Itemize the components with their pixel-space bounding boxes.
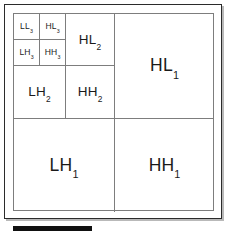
subband-lh1-level: 1 bbox=[72, 168, 78, 180]
subband-hh3-level: 3 bbox=[57, 54, 60, 60]
subband-hl1-label: HL1 bbox=[150, 57, 179, 75]
subband-hh3-label: HH3 bbox=[45, 48, 61, 57]
subband-hl1-level: 1 bbox=[173, 69, 179, 81]
subband-hh3-band: HH bbox=[45, 47, 58, 57]
subband-hl3-label: HL3 bbox=[45, 22, 59, 31]
subband-lh2: LH2 bbox=[14, 66, 65, 118]
subband-hh1-label: HH1 bbox=[149, 157, 181, 175]
figure-canvas: LL3 HL3 LH3 HH3 HL2 LH2 HH2 HL1 LH1 H bbox=[0, 0, 230, 233]
subband-ll3-label: LL3 bbox=[20, 22, 33, 31]
subband-hh1-level: 1 bbox=[174, 168, 180, 180]
subband-hh1-band: HH bbox=[149, 155, 175, 175]
subband-lh1-band: LH bbox=[50, 155, 73, 175]
subband-hl2-band: HL bbox=[79, 32, 97, 47]
subband-hh2-band: HH bbox=[78, 84, 98, 99]
subband-hh2: HH2 bbox=[66, 66, 114, 118]
subband-ll3: LL3 bbox=[14, 14, 39, 39]
subband-lh3-label: LH3 bbox=[19, 48, 33, 57]
wavelet-decomposition-box: LL3 HL3 LH3 HH3 HL2 LH2 HH2 HL1 LH1 H bbox=[13, 13, 214, 211]
subband-lh2-level: 2 bbox=[46, 94, 51, 104]
subband-hl2-label: HL2 bbox=[79, 33, 101, 47]
subband-hl3: HL3 bbox=[40, 14, 65, 39]
subband-lh3-band: LH bbox=[19, 47, 30, 57]
subband-lh3-level: 3 bbox=[31, 54, 34, 60]
subband-lh2-label: LH2 bbox=[28, 85, 50, 99]
subband-hl1-band: HL bbox=[150, 55, 173, 75]
subband-hl1: HL1 bbox=[115, 14, 214, 118]
scale-bar bbox=[13, 226, 92, 231]
subband-lh1: LH1 bbox=[14, 119, 114, 212]
subband-lh1-label: LH1 bbox=[50, 157, 79, 175]
subband-lh2-band: LH bbox=[28, 84, 46, 99]
subband-hh3: HH3 bbox=[40, 40, 65, 65]
subband-hl2-level: 2 bbox=[97, 42, 102, 52]
subband-ll3-band: LL bbox=[20, 21, 30, 31]
subband-hl3-level: 3 bbox=[57, 28, 60, 34]
frame-shadow-right bbox=[222, 6, 224, 221]
subband-hh1: HH1 bbox=[115, 119, 214, 212]
subband-ll3-level: 3 bbox=[30, 28, 33, 34]
subband-hh2-label: HH2 bbox=[78, 85, 103, 99]
subband-hh2-level: 2 bbox=[98, 94, 103, 104]
frame-shadow-bottom bbox=[6, 219, 224, 221]
subband-lh3: LH3 bbox=[14, 40, 39, 65]
subband-hl3-band: HL bbox=[45, 21, 56, 31]
subband-hl2: HL2 bbox=[66, 14, 114, 65]
